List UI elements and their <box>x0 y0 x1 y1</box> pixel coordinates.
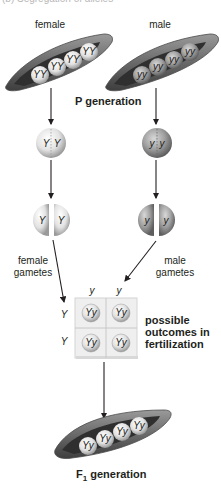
seed-genotype: yy <box>184 46 196 57</box>
punnett-cell-genotype: Yy <box>85 337 98 348</box>
seed-genotype: YY <box>33 69 48 80</box>
seed-genotype: Yy <box>116 426 129 437</box>
seed-genotype: yy <box>136 69 148 80</box>
male-parent-cell: y y <box>142 128 172 158</box>
f1-pea-pod: Yy Yy Yy Yy <box>55 410 171 459</box>
female-parent-cell: Y Y <box>36 128 66 158</box>
punnett-col-header: y <box>116 285 123 296</box>
outcomes-line3: fertilization <box>145 338 210 350</box>
seed-genotype: YY <box>82 46 97 57</box>
seed-genotype: YY <box>50 61 65 72</box>
female-pea-pod: YY YY YY YY <box>6 34 113 91</box>
f1-prefix: F <box>76 468 83 480</box>
punnett-cell-genotype: Yy <box>85 307 98 318</box>
punnett-cell-genotype: Yy <box>115 307 128 318</box>
female-gametes-label-line1: female <box>10 255 56 267</box>
female-gametes-label: female gametes <box>10 255 56 279</box>
outcomes-line1: possible <box>145 314 210 326</box>
female-gametes: Y Y <box>33 204 70 236</box>
male-gametes-label-line2: gametes <box>152 267 198 279</box>
p-generation-label: P generation <box>75 95 141 107</box>
gamete-allele: y <box>144 215 151 226</box>
seed-genotype: yy <box>168 54 180 65</box>
gamete-allele: y <box>163 215 170 226</box>
f1-suffix: generation <box>87 468 146 480</box>
allele: y <box>149 138 156 149</box>
male-gametes: y y <box>138 204 175 236</box>
punnett-cell-genotype: Yy <box>115 337 128 348</box>
seed-genotype: Yy <box>99 433 112 444</box>
punnett-row-header: Y <box>61 336 69 347</box>
inheritance-diagram: YY YY YY YY yy yy yy yy Y Y y <box>0 0 221 489</box>
seed-genotype: Yy <box>133 420 146 431</box>
female-gametes-label-line2: gametes <box>10 267 56 279</box>
allele: y <box>159 138 166 149</box>
seed-genotype: yy <box>152 61 164 72</box>
punnett-row-header: Y <box>61 309 69 320</box>
male-gametes-label: male gametes <box>152 255 198 279</box>
male-gametes-label-line1: male <box>152 255 198 267</box>
outcomes-line2: outcomes in <box>145 326 210 338</box>
possible-outcomes-label: possible outcomes in fertilization <box>145 314 210 350</box>
punnett-col-header: y <box>89 285 96 296</box>
f1-generation-label: F1 generation <box>76 468 146 483</box>
seed-genotype: YY <box>66 54 81 65</box>
seed-genotype: Yy <box>82 440 95 451</box>
punnett-square: y y Y Y Yy Yy Yy Yy <box>61 285 138 359</box>
male-pea-pod: yy yy yy yy <box>106 34 219 91</box>
